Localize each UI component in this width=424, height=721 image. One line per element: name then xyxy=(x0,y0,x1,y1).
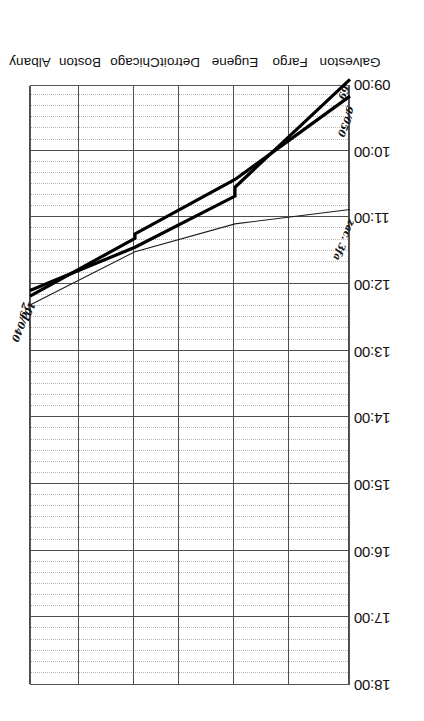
rotated-chart-stage: 691012g/050g/040zac. 3fa 09:0010:0011:00… xyxy=(0,0,424,721)
time-tick-label: 15:00 xyxy=(354,478,416,493)
time-tick-label: 18:00 xyxy=(354,678,416,693)
station-tick-label-fargo: Fargo xyxy=(272,55,307,69)
time-tick-label: 10:00 xyxy=(354,145,416,160)
station-tick-label-chicago: Chicago xyxy=(110,55,160,69)
station-tick-label-detroit: Detroit xyxy=(160,55,200,69)
station-axis: GalvestonFargoEugeneDetroitChicagoBoston… xyxy=(0,39,424,69)
station-tick-label-albany: Albany xyxy=(9,55,50,69)
time-axis: 09:0010:0011:0012:0013:0014:0015:0016:00… xyxy=(354,0,424,721)
station-tick-label-boston: Boston xyxy=(59,55,101,69)
time-tick-label: 16:00 xyxy=(354,545,416,560)
time-tick-label: 17:00 xyxy=(354,611,416,626)
time-tick-label: 13:00 xyxy=(354,345,416,360)
time-tick-label: 14:00 xyxy=(354,411,416,426)
time-tick-label: 12:00 xyxy=(354,278,416,293)
train-line-g040 xyxy=(30,209,350,305)
station-tick-label-galveston: Galveston xyxy=(320,55,381,69)
station-tick-label-eugene: Eugene xyxy=(212,55,259,69)
marey-train-schedule-figure: 691012g/050g/040zac. 3fa 09:0010:0011:00… xyxy=(0,0,424,721)
time-tick-label: 11:00 xyxy=(354,211,416,226)
time-tick-label: 09:00 xyxy=(354,78,416,93)
train-line-69 xyxy=(30,79,350,290)
